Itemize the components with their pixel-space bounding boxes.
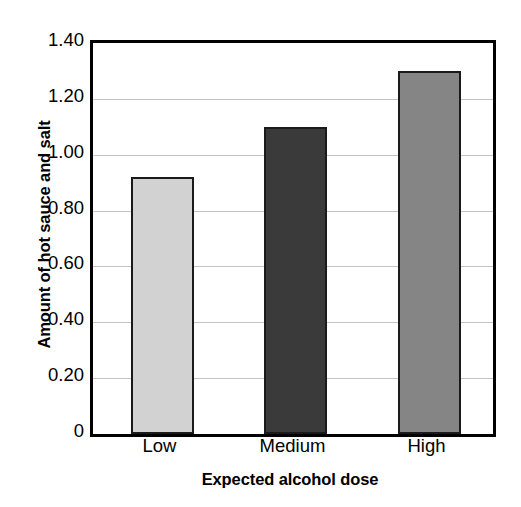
y-axis-tick-label: 1.20 bbox=[32, 87, 84, 106]
y-axis-tick-label: 0.40 bbox=[32, 310, 84, 329]
plot-inner bbox=[93, 43, 493, 434]
bar-medium bbox=[264, 127, 327, 434]
bar-chart-figure: Amount of hot sauce and salt 1.401.201.0… bbox=[0, 0, 521, 507]
bar-low bbox=[131, 177, 194, 434]
y-axis-tick-label: 0 bbox=[32, 422, 84, 441]
x-axis-tick-label: Medium bbox=[233, 437, 353, 456]
y-axis-tick-label: 0.20 bbox=[32, 366, 84, 385]
y-axis-tick-labels: 1.401.201.000.800.600.400.200 bbox=[32, 0, 84, 507]
bar-high bbox=[398, 71, 461, 434]
x-axis-tick-label: High bbox=[367, 437, 487, 456]
plot-area bbox=[90, 40, 496, 437]
y-axis-tick-label: 1.40 bbox=[32, 31, 84, 50]
y-axis-tick-label: 1.00 bbox=[32, 143, 84, 162]
y-axis-tick-label: 0.80 bbox=[32, 199, 84, 218]
x-axis-tick-labels: LowMediumHigh bbox=[90, 437, 490, 465]
x-axis-tick-label: Low bbox=[100, 437, 220, 456]
y-axis-tick-label: 0.60 bbox=[32, 254, 84, 273]
x-axis-title: Expected alcohol dose bbox=[90, 470, 490, 489]
